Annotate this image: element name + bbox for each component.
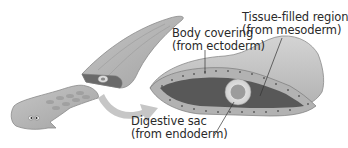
label-mesoderm-line2: (from mesoderm) bbox=[242, 24, 348, 37]
label-endoderm-line2: (from endoderm) bbox=[131, 128, 228, 141]
label-ectoderm-line2: (from ectoderm) bbox=[172, 40, 265, 53]
label-mesoderm: Tissue-filled region (from mesoderm) bbox=[242, 11, 348, 37]
label-endoderm: Digestive sac (from endoderm) bbox=[131, 115, 228, 141]
cross-section-cut-face bbox=[82, 74, 122, 88]
whole-flatworm-head-with-eyespots bbox=[11, 85, 98, 129]
digestive-sac bbox=[225, 79, 251, 105]
